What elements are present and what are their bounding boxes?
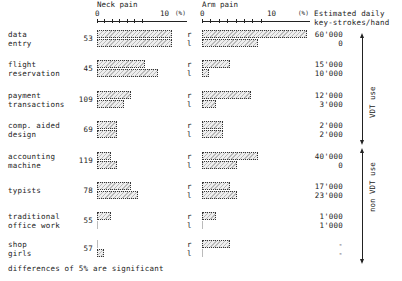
category-label-line1: comp. aided [8,121,60,130]
sample-size: 69 [84,125,93,134]
category-label-line1: shop [8,240,27,249]
neck-axis-tick [134,19,135,23]
arm-bar-right [202,91,251,99]
sample-size: 53 [84,34,93,43]
arm-bar-right [202,240,230,248]
sample-size: 57 [84,244,93,253]
arm-axis-tick [252,19,253,23]
arm-bar-left [202,161,237,169]
category-label-line1: data [8,30,27,39]
arm-axis-tick [210,19,211,23]
neck-bar-right [97,152,111,160]
category-label-line2: reservation [8,69,60,78]
category-label-line2: entry [8,39,32,48]
arm-axis-unit: (%) [298,9,309,16]
arm-bar-right [202,121,223,129]
side-label-right: r [187,30,192,39]
neck-axis-tick-10: 10 [160,9,169,18]
neck-bar-right [97,30,172,38]
keystrokes-right: 40'000 [315,152,343,161]
nonvdt-arrow-down-icon [360,259,364,264]
arm-bar-left [202,191,237,199]
sample-size: 45 [84,64,93,73]
category-label-line1: typists [8,186,41,195]
neck-bar-right [97,60,145,68]
group-label-vdt: VDT use [368,86,377,118]
keystrokes-left: 0 [338,161,343,170]
arm-bar-right [202,30,307,38]
category-label-line2: transactions [8,100,65,109]
side-label-right: r [187,212,192,221]
neck-axis-tick [112,19,113,23]
side-label-right: r [187,240,192,249]
neck-bar-left [97,191,138,199]
side-label-left: l [187,130,192,139]
side-label-left: l [187,221,192,230]
arm-axis-tick-10: 10 [267,9,276,18]
side-label-right: r [187,91,192,100]
neck-bar-left [97,100,124,108]
neck-axis-tick [142,19,143,23]
side-label-left: l [187,69,192,78]
neck-zero-marker-left [97,221,98,229]
neck-axis-tick [119,19,120,23]
keystrokes-header-line2: key-strokes/hand [314,18,389,27]
arm-axis-tick [227,19,228,23]
neck-bar-right [97,182,131,190]
keystrokes-left: 0 [338,39,343,48]
keystrokes-left: 2'000 [319,130,343,139]
arm-zero-marker-left [202,249,203,257]
side-label-left: l [187,39,192,48]
group-label-non-vdt: non VDT use [368,162,377,212]
keystrokes-right: 12'000 [315,91,343,100]
keystrokes-right: - [338,240,343,249]
sample-size: 78 [84,186,93,195]
neck-axis-tick [127,19,128,23]
keystrokes-left: - [338,249,343,258]
side-label-left: l [187,191,192,200]
sample-size: 119 [79,156,93,165]
neck-axis-unit: (%) [175,9,186,16]
category-label-line1: traditional [8,212,60,221]
arm-bar-left [202,130,223,138]
arm-bar-left [202,69,209,77]
keystrokes-header-line1: Estimated daily [314,9,385,18]
arm-axis-tick [261,19,262,23]
arm-axis-tick [219,19,220,23]
arm-bar-right [202,212,216,220]
arm-bar-left [202,100,216,108]
nonvdt-group-line [362,151,363,262]
arm-zero-marker-left [202,221,203,229]
vdt-arrow-down-icon [360,140,364,145]
sample-size: 55 [84,216,93,225]
neck-axis-tick [104,19,105,23]
arm-axis-tick [236,19,237,23]
keystrokes-left: 3'000 [319,100,343,109]
keystrokes-left: 1'000 [319,221,343,230]
category-label-line2: machine [8,161,41,170]
neck-axis-tick [97,19,98,23]
keystrokes-left: 10'000 [315,69,343,78]
side-label-right: r [187,121,192,130]
neck-bar-right [97,121,117,129]
category-label-line2: office work [8,221,60,230]
side-label-right: r [187,182,192,191]
neck-pain-title: Neck pain [97,0,138,9]
neck-bar-right [97,212,111,220]
category-label-line1: accounting [8,152,55,161]
keystrokes-right: 17'000 [315,182,343,191]
neck-bar-left [97,249,104,257]
arm-axis-tick [202,19,203,23]
keystrokes-right: 1'000 [319,212,343,221]
keystrokes-right: 15'000 [315,60,343,69]
neck-bar-left [97,161,117,169]
neck-bar-right [97,91,131,99]
keystrokes-right: 2'000 [319,121,343,130]
neck-bar-left [97,39,172,47]
arm-axis-tick-0: 0 [200,9,205,18]
neck-axis-tick-0: 0 [95,9,100,18]
arm-axis-tick [244,19,245,23]
category-label-line2: design [8,130,36,139]
neck-zero-marker-right [97,240,98,248]
arm-bar-right [202,152,258,160]
